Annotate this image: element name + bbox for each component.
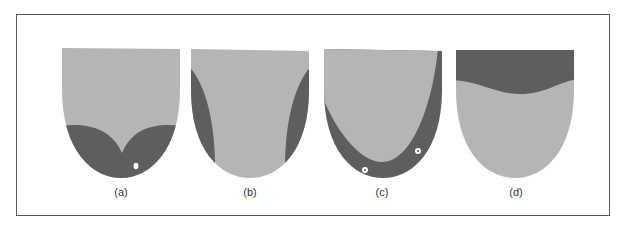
panel-c-shape	[318, 40, 448, 185]
panel-label-b: (b)	[230, 186, 270, 198]
panel-d-shape	[450, 40, 580, 185]
tongue-diagram	[0, 0, 632, 226]
marker-a	[134, 163, 139, 169]
panel-a-shape	[55, 40, 190, 185]
panel-b-shape	[185, 40, 315, 185]
panel-label-d: (d)	[496, 186, 536, 198]
panel-label-c: (c)	[362, 186, 402, 198]
panel-label-a: (a)	[101, 186, 141, 198]
